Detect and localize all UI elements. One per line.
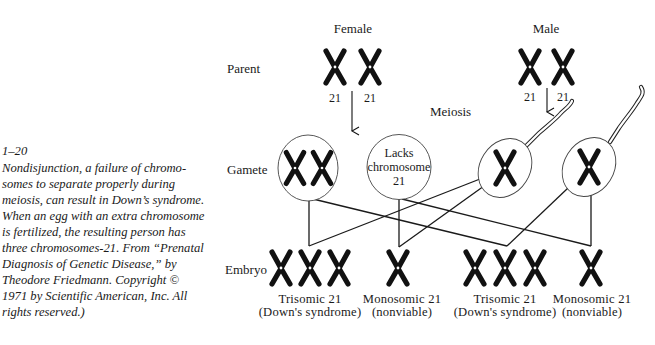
row-label-embryo: Embryo (225, 262, 267, 277)
embryo-chromosome-icon (466, 252, 484, 284)
embryo-trisomic-right: Trisomic 21 (Down's syndrome) (454, 252, 557, 319)
figure-page: 1–20 Nondisjunction, a failure of chromo… (0, 0, 655, 345)
outcome-title: Monosomic 21 (363, 292, 441, 306)
outcome-subtitle: (nonviable) (372, 305, 432, 319)
egg-lacking-chromosome: Lacks chromosome 21 (367, 135, 431, 200)
lacks-label-line: 21 (393, 174, 405, 188)
sperm-2 (551, 87, 642, 207)
embryo-monosomic-left: Monosomic 21 (nonviable) (363, 252, 441, 319)
embryo-chromosome-icon (272, 252, 290, 284)
link-line (507, 188, 568, 246)
egg-cell-icon (278, 135, 338, 201)
outcome-subtitle: (Down's syndrome) (259, 305, 362, 319)
outcome-title: Monosomic 21 (553, 292, 631, 306)
female-parent-chromosome-icon (326, 51, 344, 83)
embryo-trisomic-left: Trisomic 21 (Down's syndrome) (259, 252, 362, 319)
embryo-chromosome-icon (526, 252, 544, 284)
male-parent-chromosome-icon (521, 51, 539, 83)
nondisjunction-diagram: Female Male Parent Gamete Embryo Meiosis… (0, 0, 655, 345)
egg-disomic (278, 135, 338, 201)
chromosome-number-label: 21 (524, 90, 536, 104)
embryo-chromosome-icon (496, 252, 514, 284)
embryo-chromosome-icon (301, 252, 319, 284)
outcome-subtitle: (Down's syndrome) (454, 305, 557, 319)
chromosome-number-label: 21 (329, 91, 341, 105)
lacks-label-line: chromosome (368, 160, 431, 174)
chromosome-number-label: 21 (364, 91, 376, 105)
row-label-parent: Parent (227, 61, 261, 76)
row-label-gamete: Gamete (227, 162, 268, 177)
link-line (402, 199, 591, 246)
meiosis-label: Meiosis (430, 104, 471, 119)
lacks-label-line: Lacks (384, 146, 413, 160)
male-parent-chromosome-icon (554, 51, 572, 83)
female-parent-chromosome-icon (361, 51, 379, 83)
embryo-monosomic-right: Monosomic 21 (nonviable) (553, 252, 631, 319)
outcome-subtitle: (nonviable) (562, 305, 622, 319)
embryo-chromosome-icon (389, 252, 407, 284)
embryo-chromosome-icon (330, 252, 348, 284)
chromosome-number-label: 21 (557, 90, 569, 104)
female-header: Female (334, 21, 372, 36)
embryo-chromosome-icon (582, 252, 600, 284)
outcome-title: Trisomic 21 (279, 292, 342, 306)
fertilization-links (309, 179, 591, 247)
male-header: Male (533, 21, 560, 36)
outcome-title: Trisomic 21 (474, 292, 537, 306)
sperm-1 (467, 101, 572, 208)
